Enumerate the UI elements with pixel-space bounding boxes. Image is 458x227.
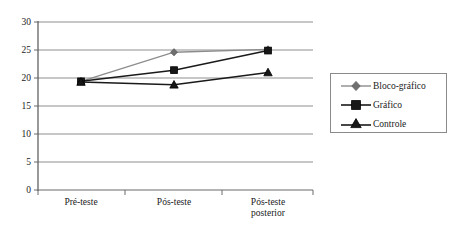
data-point-marker [171,67,178,74]
y-tick-labels-group: 302520151050 [22,17,32,195]
y-tick-label: 25 [22,45,32,55]
data-point-marker [265,47,272,54]
y-tick-label: 20 [22,73,32,83]
chart-legend: Bloco-gráfico Gráfico Controle [330,73,447,133]
legend-key-diamond-icon [339,77,373,95]
y-tick-label: 0 [26,185,31,195]
legend-label-grafico: Gráfico [373,100,402,111]
line-chart-figure: 302520151050 Pré-testePós-testePós-teste… [0,0,458,227]
data-series-group [77,46,272,88]
legend-key-triangle-icon [339,115,373,133]
data-point-marker [264,68,272,76]
legend-key-square-icon [339,96,373,114]
y-tick-label: 15 [22,101,32,111]
gridlines-group [38,22,313,162]
x-tick-labels-group: Pré-testePós-testePós-testeposterior [64,197,285,218]
legend-item-grafico: Gráfico [331,95,448,115]
y-tick-label: 5 [26,157,31,167]
x-tick-label: posterior [251,208,286,218]
x-tick-label: Pré-teste [64,197,97,207]
x-tick-label: Pós-teste [251,197,285,207]
x-axis-group [38,190,313,195]
legend-label-bloco-grafico: Bloco-gráfico [373,81,426,92]
x-tick-label: Pós-teste [157,197,191,207]
y-tick-label: 10 [22,129,32,139]
legend-item-bloco-grafico: Bloco-gráfico [331,76,448,96]
y-tick-label: 30 [22,17,32,27]
legend-item-controle: Controle [331,114,448,134]
legend-label-controle: Controle [373,119,406,130]
